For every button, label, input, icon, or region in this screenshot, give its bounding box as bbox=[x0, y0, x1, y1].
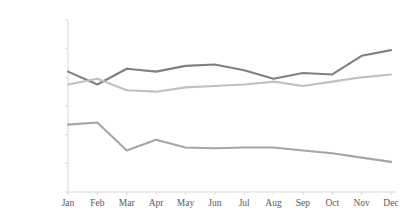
x-axis-tick-label: Jul bbox=[239, 198, 250, 209]
x-axis-tick-label: Jun bbox=[208, 198, 221, 209]
x-axis-tick-label: Mar bbox=[119, 198, 135, 209]
x-axis-tick-label: Dec bbox=[383, 198, 398, 209]
x-axis-tick-label: Feb bbox=[90, 198, 104, 209]
x-axis-tick-label: Aug bbox=[265, 198, 281, 209]
x-axis-tick-label: Jan bbox=[62, 198, 75, 209]
x-axis-tick-labels: JanFebMarAprMayJunJulAugSepOctNovDec bbox=[0, 0, 401, 221]
x-axis-tick-label: May bbox=[177, 198, 194, 209]
x-axis-tick-label: Apr bbox=[149, 198, 164, 209]
x-axis-tick-label: Oct bbox=[325, 198, 339, 209]
x-axis-tick-label: Sep bbox=[296, 198, 310, 209]
x-axis-tick-label: Nov bbox=[353, 198, 369, 209]
line-chart: 020,00040,00060,00080,000100,000120,000 … bbox=[0, 0, 401, 221]
